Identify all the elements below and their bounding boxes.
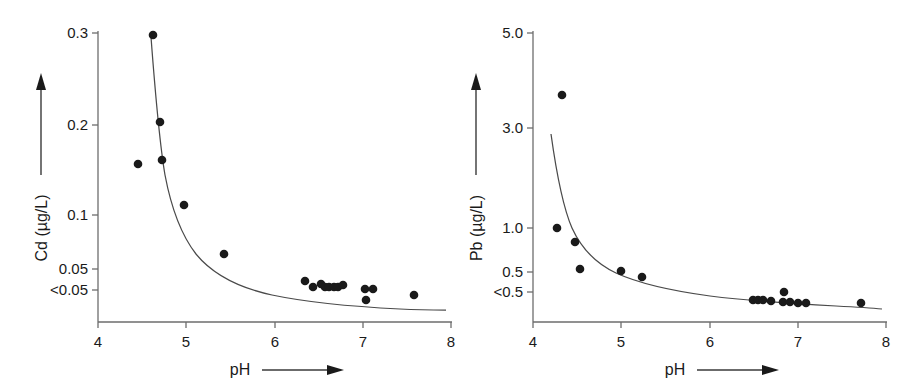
chart-panel-pb: 5.0 3.0 1.0 0.5 <0.5 4 5 6 7 8 Pb (µg/L)… [458, 0, 916, 385]
cd-x-tick-label-0: 4 [94, 333, 102, 350]
chart-panel-cd: 0.3 0.2 0.1 0.05 <0.05 4 5 6 7 8 Cd (µg/… [0, 0, 458, 385]
data-point [158, 156, 167, 165]
cd-x-tick-label-3: 7 [359, 333, 367, 350]
cd-y-tick-label-2: 0.1 [67, 206, 88, 223]
data-point [156, 118, 165, 127]
cd-y-axis-title: Cd (µg/L) [33, 194, 50, 261]
pb-fit-curve [551, 134, 882, 309]
pb-x-axis-title: pH [665, 361, 685, 378]
pb-y-tick-label-1: 3.0 [502, 119, 523, 136]
data-point [558, 91, 567, 100]
pb-y-tick-label-2: 1.0 [502, 219, 523, 236]
cd-y-tick-label-1: 0.2 [67, 116, 88, 133]
pb-plot-svg: 5.0 3.0 1.0 0.5 <0.5 4 5 6 7 8 Pb (µg/L)… [458, 0, 916, 385]
data-point [301, 277, 310, 286]
data-point [134, 160, 143, 169]
pb-x-tick-label-2: 6 [706, 333, 714, 350]
data-point [794, 299, 803, 308]
data-point [149, 31, 158, 40]
data-point [553, 224, 562, 233]
figure-container: 0.3 0.2 0.1 0.05 <0.05 4 5 6 7 8 Cd (µg/… [0, 0, 916, 385]
pb-y-tick-label-3: 0.5 [502, 263, 523, 280]
cd-y-tick-label-3: 0.05 [59, 260, 88, 277]
data-point [309, 283, 318, 292]
pb-x-tick-label-0: 4 [529, 333, 537, 350]
data-point [638, 273, 647, 282]
data-point [571, 238, 580, 247]
cd-x-tick-label-4: 8 [447, 333, 455, 350]
data-point [180, 201, 189, 210]
data-point [220, 250, 229, 259]
data-point [410, 291, 419, 300]
data-point [369, 285, 378, 294]
pb-x-tick-label-4: 8 [882, 333, 890, 350]
data-point [617, 267, 626, 276]
data-point [362, 296, 371, 305]
cd-x-axis-title: pH [230, 361, 250, 378]
data-point [339, 281, 348, 290]
data-point [576, 265, 585, 274]
cd-y-tick-label-4: <0.05 [50, 281, 88, 298]
pb-x-tick-label-3: 7 [794, 333, 802, 350]
data-point [786, 298, 795, 307]
pb-x-tick-label-1: 5 [617, 333, 625, 350]
data-point [857, 299, 866, 308]
cd-y-tick-label-0: 0.3 [67, 24, 88, 41]
cd-x-tick-label-2: 6 [271, 333, 279, 350]
cd-up-arrow-icon [36, 73, 46, 90]
data-point [802, 299, 811, 308]
pb-y-tick-label-4: <0.5 [493, 283, 523, 300]
cd-right-arrow-icon [327, 365, 344, 375]
data-point [759, 296, 768, 305]
cd-data-points [134, 31, 419, 305]
pb-right-arrow-icon [762, 365, 779, 375]
data-point [780, 288, 789, 297]
cd-x-tick-label-1: 5 [182, 333, 190, 350]
pb-y-tick-label-0: 5.0 [502, 24, 523, 41]
cd-fit-curve [151, 37, 446, 310]
pb-y-axis-title: Pb (µg/L) [468, 195, 485, 261]
data-point [361, 285, 370, 294]
data-point [767, 297, 776, 306]
cd-plot-svg: 0.3 0.2 0.1 0.05 <0.05 4 5 6 7 8 Cd (µg/… [0, 0, 458, 385]
pb-data-points [553, 91, 866, 308]
pb-up-arrow-icon [471, 73, 481, 90]
